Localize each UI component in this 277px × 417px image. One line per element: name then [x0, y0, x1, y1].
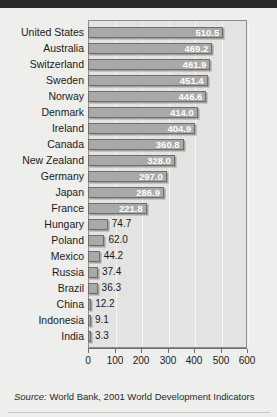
category-label: Sweden: [0, 72, 84, 88]
table-row: Mexico44.2: [0, 248, 277, 264]
bar: [88, 331, 91, 342]
tick-100: [115, 349, 116, 353]
bar-value-label: 37.4: [102, 266, 121, 278]
bar-value-label: 404.9: [88, 123, 191, 134]
bar-value-label: 286.9: [88, 187, 160, 198]
bar: [88, 219, 108, 230]
bar-track: 510.5: [88, 24, 277, 40]
bar-value-label: 360.8: [88, 139, 180, 150]
source-text: World Bank, 2001 World Development Indic…: [49, 391, 254, 402]
bar: [88, 283, 98, 294]
bar: [88, 251, 100, 262]
category-label: Ireland: [0, 120, 84, 136]
bar: [88, 235, 104, 246]
bar-value-label: 9.1: [95, 314, 109, 326]
table-row: Brazil36.3: [0, 280, 277, 296]
bar-value-label: 414.0: [88, 107, 194, 118]
bar-track: 469.2: [88, 40, 277, 56]
table-row: Norway446.6: [0, 88, 277, 104]
table-row: New Zealand328.0: [0, 152, 277, 168]
figure-page: United States510.5Australia469.2Switzerl…: [0, 8, 277, 417]
category-label: Canada: [0, 136, 84, 152]
top-dark-band: [0, 0, 277, 8]
bar-track: 36.3: [88, 280, 277, 296]
table-row: United States510.5: [0, 24, 277, 40]
bar: [88, 315, 91, 326]
table-row: Russia37.4: [0, 264, 277, 280]
table-row: Hungary74.7: [0, 216, 277, 232]
tick-500: [221, 349, 222, 353]
bar-value-label: 221.8: [88, 203, 143, 214]
bar-track: 74.7: [88, 216, 277, 232]
category-label: Brazil: [0, 280, 84, 296]
table-row: Poland62.0: [0, 232, 277, 248]
category-label: Switzerland: [0, 56, 84, 72]
category-label: Norway: [0, 88, 84, 104]
bar-track: 9.1: [88, 312, 277, 328]
table-row: Ireland404.9: [0, 120, 277, 136]
category-label: India: [0, 328, 84, 344]
category-label: United States: [0, 24, 84, 40]
bar-value-label: 297.0: [88, 171, 163, 182]
bar-track: 297.0: [88, 168, 277, 184]
category-label: Russia: [0, 264, 84, 280]
bar-chart: United States510.5Australia469.2Switzerl…: [0, 20, 277, 370]
bar-value-label: 44.2: [104, 250, 123, 262]
tick-0: [88, 349, 89, 353]
bar-track: 44.2: [88, 248, 277, 264]
bar-track: 414.0: [88, 104, 277, 120]
category-label: Germany: [0, 168, 84, 184]
table-row: Australia469.2: [0, 40, 277, 56]
category-label: Poland: [0, 232, 84, 248]
tick-300: [168, 349, 169, 353]
source-note: Source: World Bank, 2001 World Developme…: [14, 391, 264, 402]
bar-value-label: 3.3: [95, 330, 109, 342]
category-label: Denmark: [0, 104, 84, 120]
category-label: Mexico: [0, 248, 84, 264]
category-label: Australia: [0, 40, 84, 56]
bar-value-label: 446.6: [88, 91, 202, 102]
table-row: Sweden451.4: [0, 72, 277, 88]
bar-value-label: 461.9: [88, 59, 206, 70]
category-label: France: [0, 200, 84, 216]
bar-value-label: 328.0: [88, 155, 171, 166]
bar-value-label: 62.0: [108, 234, 127, 246]
bar-track: 12.2: [88, 296, 277, 312]
bar-track: 3.3: [88, 328, 277, 344]
table-row: China12.2: [0, 296, 277, 312]
category-label: Indonesia: [0, 312, 84, 328]
bar-track: 286.9: [88, 184, 277, 200]
bar-track: 62.0: [88, 232, 277, 248]
tick-200: [141, 349, 142, 353]
bar-value-label: 510.5: [88, 27, 219, 38]
bar-value-label: 451.4: [88, 75, 204, 86]
bar-value-label: 36.3: [102, 282, 121, 294]
table-row: Indonesia9.1: [0, 312, 277, 328]
category-label: China: [0, 296, 84, 312]
category-label: Japan: [0, 184, 84, 200]
bar-track: 360.8: [88, 136, 277, 152]
bar-value-label: 74.7: [112, 218, 131, 230]
table-row: India3.3: [0, 328, 277, 344]
bar-track: 451.4: [88, 72, 277, 88]
bar-track: 461.9: [88, 56, 277, 72]
table-row: Switzerland461.9: [0, 56, 277, 72]
tick-label-600: 600: [227, 355, 267, 366]
table-row: Japan286.9: [0, 184, 277, 200]
bar-track: 221.8: [88, 200, 277, 216]
tick-600: [247, 349, 248, 353]
bar-track: 404.9: [88, 120, 277, 136]
category-label: New Zealand: [0, 152, 84, 168]
table-row: Denmark414.0: [0, 104, 277, 120]
source-prefix: Source:: [14, 391, 47, 402]
category-label: Hungary: [0, 216, 84, 232]
table-row: France221.8: [0, 200, 277, 216]
tick-400: [194, 349, 195, 353]
bar-track: 328.0: [88, 152, 277, 168]
bar-value-label: 469.2: [88, 43, 208, 54]
bar-value-label: 12.2: [95, 298, 114, 310]
bottom-divider: [8, 412, 270, 413]
bar-track: 446.6: [88, 88, 277, 104]
bar: [88, 299, 91, 310]
table-row: Germany297.0: [0, 168, 277, 184]
